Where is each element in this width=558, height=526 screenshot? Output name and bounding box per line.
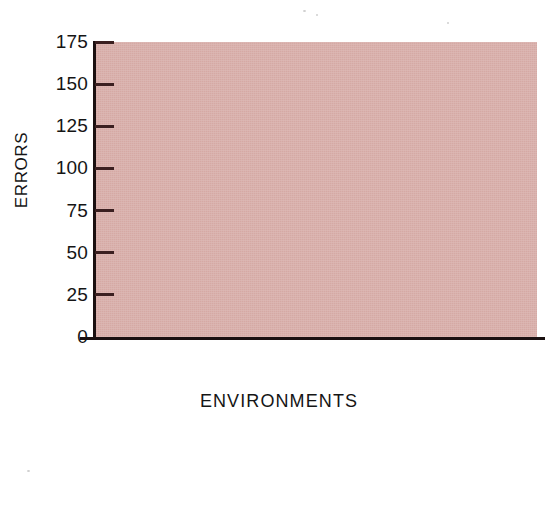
y-tick-label-wrap: 175: [0, 32, 88, 51]
y-tick-label: 25: [40, 285, 88, 304]
paper-texture: [95, 42, 537, 337]
y-tick-mark: [95, 125, 114, 128]
y-tick-label: 125: [40, 116, 88, 135]
y-tick-mark: [95, 209, 114, 212]
y-tick-label: 50: [40, 243, 88, 262]
y-tick-label: 175: [40, 32, 88, 51]
y-tick-label-wrap: 150: [0, 74, 88, 93]
bar-chart-figure: 1751501251007550250 ERRORS ENVIRONMENTS: [0, 0, 558, 526]
y-tick-label: 0: [40, 327, 88, 346]
scan-speckle: [27, 470, 30, 472]
y-tick-mark: [95, 41, 114, 44]
y-tick-label-wrap: 25: [0, 285, 88, 304]
y-tick-label-wrap: 0: [0, 327, 88, 346]
y-tick-label: 150: [40, 74, 88, 93]
scan-speckle: [316, 14, 318, 16]
y-tick-mark: [95, 167, 114, 170]
y-tick-label: 75: [40, 201, 88, 220]
y-tick-mark: [95, 293, 114, 296]
y-tick-mark: [95, 83, 114, 86]
x-axis-title: ENVIRONMENTS: [0, 391, 558, 412]
y-tick-label-wrap: 50: [0, 243, 88, 262]
scan-speckle: [447, 22, 449, 24]
y-tick-label: 100: [40, 158, 88, 177]
plot-area: [95, 42, 537, 337]
scan-speckle: [303, 10, 306, 12]
y-axis-title: ERRORS: [12, 110, 32, 230]
y-tick-mark: [95, 251, 114, 254]
x-axis-line: [80, 337, 545, 340]
